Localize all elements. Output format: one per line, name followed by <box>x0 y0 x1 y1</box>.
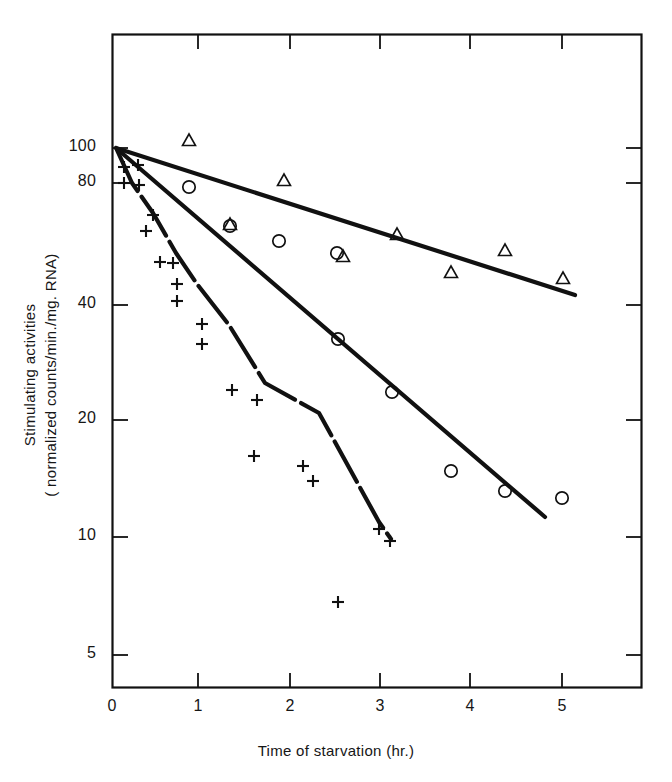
xtick-label-0: 0 <box>99 697 125 715</box>
ytick-label-100: 100 <box>44 137 96 155</box>
xtick-label-3: 3 <box>367 697 393 715</box>
triangle-markers <box>183 134 570 284</box>
xtick-label-5: 5 <box>549 697 575 715</box>
caption-fragment <box>30 772 642 782</box>
right-axis-ticks <box>626 148 642 655</box>
circle-trend-line <box>116 148 545 517</box>
x-axis-title: Time of starvation (hr.) <box>0 742 672 759</box>
triangle-trend-line <box>116 148 575 295</box>
xtick-label-4: 4 <box>457 697 483 715</box>
top-axis-ticks <box>198 35 562 50</box>
xtick-label-1: 1 <box>185 697 211 715</box>
xtick-label-2: 2 <box>277 697 303 715</box>
plus-trend-line <box>117 150 391 539</box>
figure-panel: 100 80 40 20 10 5 0 1 2 3 4 5 Time of st… <box>0 0 672 782</box>
y-axis-title-line1: Stimulating activities <box>19 165 40 585</box>
plot-frame <box>113 35 642 688</box>
left-axis-ticks <box>113 148 129 655</box>
y-axis-title: Stimulating activities ( normalized coun… <box>19 165 65 585</box>
trend-lines <box>116 148 575 539</box>
bottom-axis-ticks <box>198 673 562 688</box>
ytick-label-5: 5 <box>44 644 96 662</box>
y-axis-title-line2: ( normalized counts/min./mg. RNA) <box>40 165 61 585</box>
plot-canvas <box>0 0 672 782</box>
